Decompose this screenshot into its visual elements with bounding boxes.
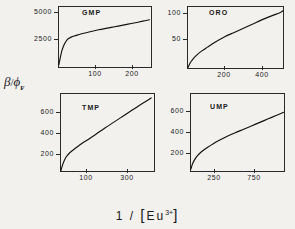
ytick-mark-ump-600 — [186, 111, 190, 112]
ytick-mark-tmp-400 — [56, 133, 60, 134]
ytick-label-oro-100: 100 — [157, 9, 181, 16]
xtick-mark-gmp-100 — [95, 65, 96, 69]
ytick-label-ump-400: 400 — [160, 128, 184, 135]
data-curve-gmp — [58, 6, 152, 68]
xtick-mark-ump-250 — [214, 169, 215, 173]
ytick-label-ump-200: 200 — [160, 149, 184, 156]
data-curve-tmp — [60, 93, 155, 172]
panel-title-oro: ORO — [209, 9, 228, 16]
x-axis-label-charge: 3+ — [165, 209, 173, 216]
xtick-mark-ump-750 — [254, 169, 255, 173]
panel-title-ump: UMP — [210, 103, 229, 110]
y-axis-label-subscript: F — [20, 84, 24, 92]
x-axis-label: 1 / [Eu3+] — [0, 206, 295, 223]
ytick-mark-oro-100 — [183, 13, 187, 14]
xtick-label-tmp-100: 100 — [74, 174, 98, 181]
data-curve-ump — [190, 93, 285, 172]
ytick-mark-gmp-5000 — [54, 12, 58, 13]
ytick-label-tmp-400: 400 — [30, 129, 54, 136]
plot-panel-tmp: TMP — [60, 93, 155, 172]
xtick-mark-tmp-100 — [86, 169, 87, 173]
ytick-mark-tmp-200 — [56, 154, 60, 155]
xtick-label-gmp-100: 100 — [83, 70, 107, 77]
ytick-mark-ump-400 — [186, 132, 190, 133]
ytick-label-oro-50: 50 — [157, 35, 181, 42]
x-axis-label-close-bracket: ] — [173, 206, 179, 223]
xtick-label-gmp-200: 200 — [120, 70, 144, 77]
panel-title-tmp: TMP — [82, 104, 100, 111]
plot-panel-oro: ORO — [187, 6, 284, 69]
ytick-label-tmp-200: 200 — [30, 150, 54, 157]
x-axis-label-element: Eu — [147, 209, 166, 223]
xtick-label-ump-750: 750 — [242, 174, 266, 181]
data-curve-oro — [187, 6, 284, 69]
x-axis-label-prefix: 1 / — [116, 209, 141, 223]
xtick-label-tmp-300: 300 — [115, 174, 139, 181]
figure-root: GMP 5000 2500 100 200 ORO 100 50 200 400… — [0, 0, 295, 229]
ytick-label-gmp-5000: 5000 — [22, 8, 52, 15]
xtick-mark-oro-200 — [224, 66, 225, 70]
xtick-label-ump-250: 250 — [202, 174, 226, 181]
xtick-label-oro-400: 400 — [250, 71, 274, 78]
ytick-mark-tmp-600 — [56, 112, 60, 113]
ytick-label-gmp-2500: 2500 — [22, 35, 52, 42]
ytick-label-tmp-600: 600 — [30, 108, 54, 115]
ytick-mark-oro-50 — [183, 39, 187, 40]
xtick-mark-tmp-300 — [127, 169, 128, 173]
ytick-label-ump-600: 600 — [160, 107, 184, 114]
ytick-mark-ump-200 — [186, 153, 190, 154]
xtick-label-oro-200: 200 — [212, 71, 236, 78]
xtick-mark-gmp-200 — [132, 65, 133, 69]
plot-panel-ump: UMP — [190, 93, 285, 172]
panel-title-gmp: GMP — [82, 9, 101, 16]
ytick-mark-gmp-2500 — [54, 39, 58, 40]
plot-panel-gmp: GMP — [58, 6, 152, 68]
xtick-mark-oro-400 — [262, 66, 263, 70]
y-axis-label: β/ϕF — [4, 74, 25, 92]
